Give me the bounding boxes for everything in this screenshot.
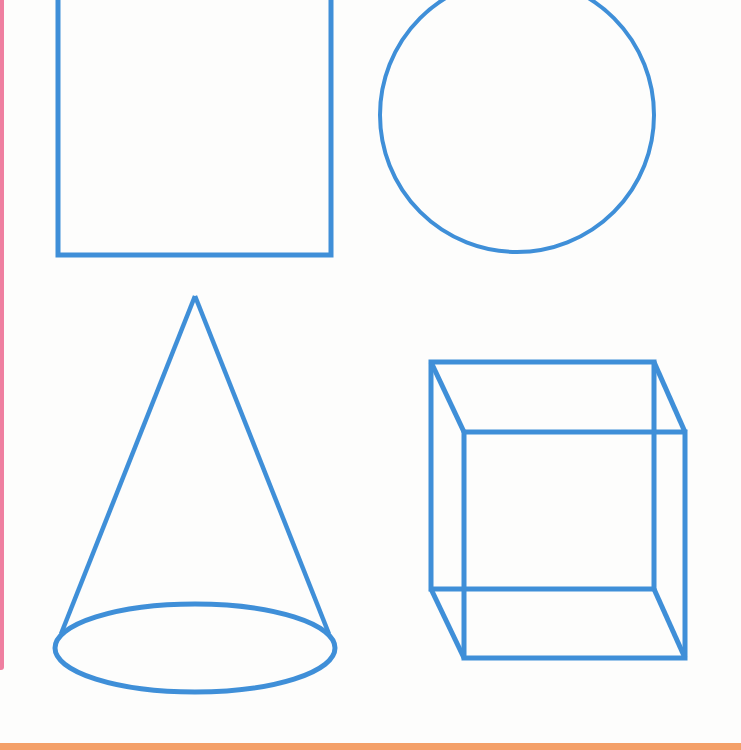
shapes-diagram: [0, 0, 741, 750]
bottom-orange-band: [0, 743, 741, 750]
cube-shape: [431, 362, 685, 658]
cube-edge-top-right: [654, 362, 685, 432]
cone-left-slant-edge: [61, 296, 195, 634]
circle-shape: [380, 0, 654, 252]
cone-base-ellipse: [55, 604, 335, 692]
cube-edge-bottom-left: [431, 589, 464, 658]
worksheet-page: Geometric shapes: square, circle, cone, …: [0, 0, 741, 750]
cube-edge-bottom-right: [654, 589, 685, 658]
square-shape: [58, 0, 331, 255]
cone-right-slant-edge: [195, 296, 329, 634]
cube-edge-top-left: [431, 362, 464, 432]
cone-shape: [55, 296, 335, 692]
